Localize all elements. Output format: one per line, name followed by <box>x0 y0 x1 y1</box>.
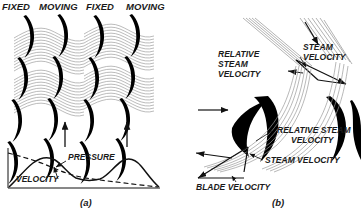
velocity-label: VELOCITY <box>16 174 60 184</box>
leader-steam-velocity-lower <box>250 154 263 160</box>
row-label-moving-1: MOVING <box>39 1 78 12</box>
label-steam-velocity-top-line2: VELOCITY <box>303 52 347 62</box>
panel-a-graph: PRESSURE VELOCITY <box>8 148 160 188</box>
panel-a-row-labels: FIXED MOVING FIXED MOVING <box>2 1 165 12</box>
label-relative-steam-velocity-left-line2: STEAM <box>218 59 249 69</box>
label-relative-steam-velocity-mid-line1: RELATIVE STEAM <box>277 125 351 135</box>
row-label-moving-2: MOVING <box>126 1 165 12</box>
row-label-fixed-1: FIXED <box>2 1 30 12</box>
label-relative-steam-velocity-left-line3: VELOCITY <box>218 69 262 79</box>
panel-b: RELATIVE STEAM VELOCITY STEAM VELOCITY R… <box>196 18 361 208</box>
label-blade-velocity: BLADE VELOCITY <box>196 182 271 192</box>
turbine-figure: FIXED MOVING FIXED MOVING <box>0 0 363 213</box>
label-steam-velocity-top-line1: STEAM <box>303 42 334 52</box>
panel-b-caption: (b) <box>272 197 284 208</box>
inlet-steam-arrow <box>305 22 318 44</box>
row-label-fixed-2: FIXED <box>86 1 114 12</box>
figure-container: FIXED MOVING FIXED MOVING <box>0 0 363 213</box>
label-relative-steam-velocity-left-line1: RELATIVE <box>218 49 260 59</box>
velocity-triangle-lower <box>196 147 248 178</box>
panel-a: FIXED MOVING FIXED MOVING <box>2 1 165 208</box>
label-relative-steam-velocity-mid-line2: VELOCITY <box>291 135 335 145</box>
panel-a-caption: (a) <box>80 197 92 208</box>
label-steam-velocity-lower: STEAM VELOCITY <box>265 155 341 165</box>
panel-a-flow-arrows <box>65 122 127 147</box>
pressure-label: PRESSURE <box>68 152 115 162</box>
